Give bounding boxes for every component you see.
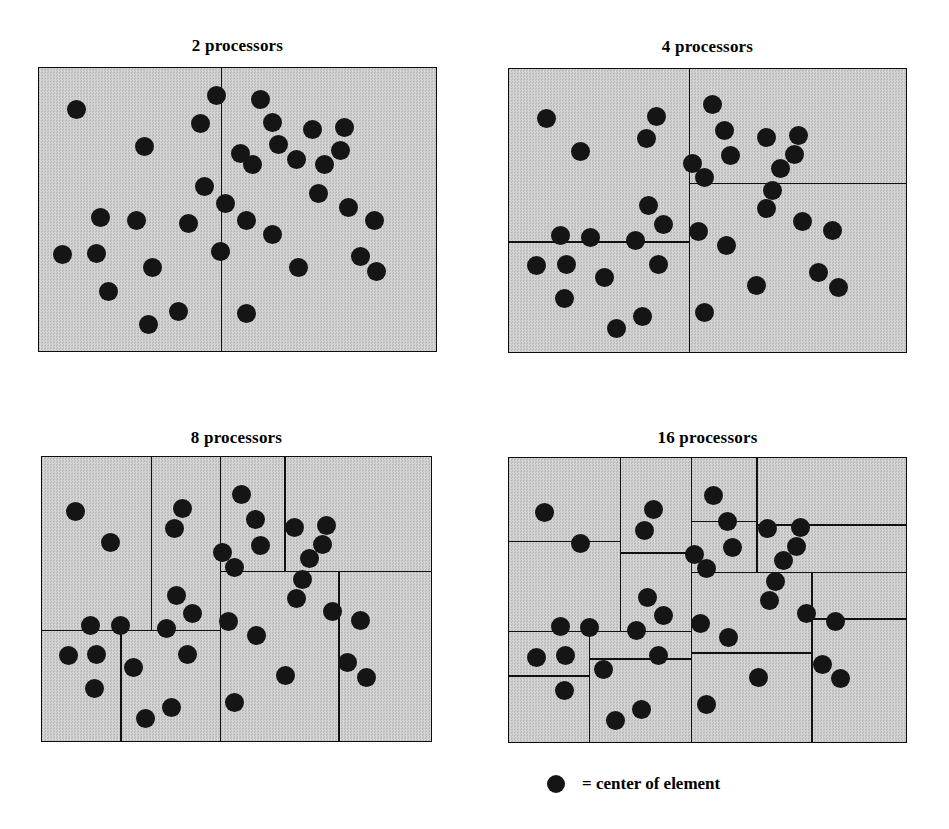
element-center-dot [111,616,130,635]
element-center-dot [263,225,282,244]
element-center-dot [243,155,262,174]
element-center-dot [527,256,546,275]
partition-cut-h-1 [42,630,220,631]
element-center-dot [723,538,742,557]
element-center-dot [136,709,155,728]
element-center-dot [309,184,328,203]
element-center-dot [627,621,646,640]
panel-title: 8 processors [41,428,432,448]
element-center-dot [689,222,708,241]
element-center-dot [831,669,850,688]
legend-label: = center of element [582,774,720,794]
element-center-dot [695,303,714,322]
element-center-dot [766,572,785,591]
element-center-dot [247,626,266,645]
element-center-dot [632,700,651,719]
element-center-dot [157,619,176,638]
element-center-dot [365,211,384,230]
element-center-dot [719,628,738,647]
element-center-dot [809,263,828,282]
element-center-dot [537,109,556,128]
element-center-dot [357,668,376,687]
element-center-dot [331,141,350,160]
panel-title: 4 processors [508,37,907,57]
element-center-dot [606,711,625,730]
legend: = center of element [547,774,720,794]
element-center-dot [721,146,740,165]
element-center-dot [339,198,358,217]
element-center-dot [555,289,574,308]
element-center-dot [191,114,210,133]
element-center-dot [747,276,766,295]
panel-8-processors: 8 processors [41,428,432,742]
element-center-dot [704,486,723,505]
domain-box [508,457,907,743]
element-center-dot [219,612,238,631]
panel-16-processors: 16 processors [508,428,907,743]
element-center-dot [81,616,100,635]
element-center-dot [139,315,158,334]
element-center-dot [717,236,736,255]
element-center-dot [315,155,334,174]
element-center-dot [178,645,197,664]
element-center-dot [823,221,842,240]
element-center-dot [581,228,600,247]
partition-cut-h-4 [220,571,432,572]
element-center-dot [99,282,118,301]
element-center-dot [276,666,295,685]
element-center-dot [237,211,256,230]
element-center-dot [829,278,848,297]
element-center-dot [594,660,613,679]
element-center-dot [697,559,716,578]
element-center-dot [232,485,251,504]
element-center-dot [269,135,288,154]
panel-title: 16 processors [508,428,907,448]
domain-box [38,67,437,352]
element-center-dot [225,558,244,577]
element-center-dot [87,244,106,263]
element-center-dot [757,199,776,218]
element-center-dot [649,255,668,274]
element-center-dot [718,512,737,531]
element-center-dot [758,519,777,538]
figure-root: 2 processors4 processors8 processors16 p… [0,0,949,829]
element-center-dot [251,90,270,109]
element-center-dot [287,150,306,169]
element-center-dot [607,319,626,338]
partition-cut-v-3 [120,630,121,742]
partition-cut-h-1 [509,631,691,632]
element-center-dot [66,502,85,521]
partition-cut-v-0 [691,458,692,743]
element-center-dot [179,214,198,233]
element-center-dot [637,129,656,148]
partition-cut-v-6 [811,572,812,743]
element-center-dot [654,606,673,625]
element-center-dot [715,121,734,140]
element-center-dot [285,518,304,537]
element-center-dot [367,262,386,281]
partition-cut-v-5 [756,458,757,572]
partition-cut-v-0 [689,69,690,353]
element-center-dot [797,604,816,623]
element-center-dot [91,208,110,227]
element-center-dot [323,602,342,621]
element-center-dot [263,113,282,132]
element-center-dot [793,212,812,231]
element-center-dot [638,588,657,607]
partition-cut-h-4 [691,572,907,573]
element-center-dot [251,536,270,555]
partition-cut-h-7 [509,541,620,542]
element-center-dot [216,194,235,213]
panel-title: 2 processors [38,36,437,56]
element-center-dot [169,302,188,321]
element-center-dot [195,177,214,196]
element-center-dot [691,614,710,633]
partition-cut-v-5 [284,457,285,571]
element-center-dot [826,612,845,631]
element-center-dot [654,215,673,234]
element-center-dot [53,245,72,264]
element-center-dot [626,231,645,250]
element-center-dot [335,118,354,137]
element-center-dot [127,211,146,230]
element-center-dot [647,107,666,126]
